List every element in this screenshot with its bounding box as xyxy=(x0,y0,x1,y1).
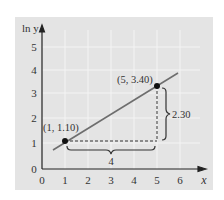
data-point-2 xyxy=(154,83,160,89)
y-tick-5: 5 xyxy=(31,41,37,53)
rise-label: 2.30 xyxy=(172,109,190,120)
x-tick-1: 1 xyxy=(62,174,68,186)
point-2-label: (5, 3.40) xyxy=(117,74,153,86)
y-tick-4: 4 xyxy=(31,64,37,76)
y-axis-label: ln y xyxy=(22,22,39,34)
chart-panel xyxy=(15,17,213,190)
y-tick-2: 2 xyxy=(31,112,37,124)
y-tick-0: 0 xyxy=(31,163,37,175)
x-tick-6: 6 xyxy=(177,174,183,186)
y-tick-1: 1 xyxy=(31,137,37,149)
x-axis-label: x xyxy=(200,173,207,187)
x-tick-5: 5 xyxy=(154,174,160,186)
data-point-1 xyxy=(62,138,68,144)
x-tick-2: 2 xyxy=(85,174,91,186)
x-tick-4: 4 xyxy=(131,174,137,186)
y-tick-3: 3 xyxy=(31,87,37,99)
chart: 0 1 2 3 4 5 6 x 0 1 2 3 4 5 ln y 4 2.30 … xyxy=(0,0,224,200)
point-1-label: (1, 1.10) xyxy=(43,122,79,134)
x-tick-0: 0 xyxy=(39,174,45,186)
x-tick-3: 3 xyxy=(108,174,114,186)
run-label: 4 xyxy=(108,156,114,167)
